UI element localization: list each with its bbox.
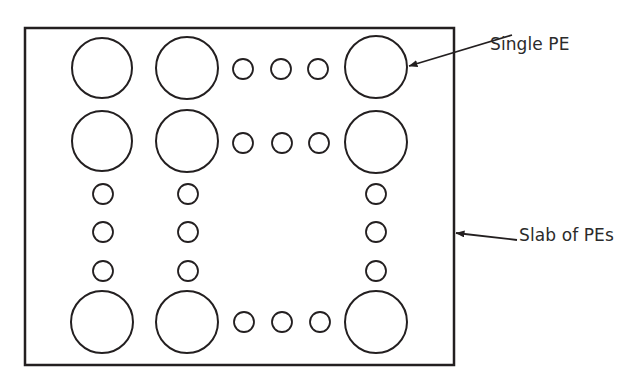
pe-circle-small (93, 184, 113, 204)
pe-circle-small (234, 312, 254, 332)
pe-circle-small (233, 59, 253, 79)
annotation-arrows (409, 35, 517, 240)
annotation-arrow-slab-of-pes (456, 233, 517, 240)
pe-circle-small (272, 133, 292, 153)
pe-circle-small (272, 312, 292, 332)
pe-circle-large (345, 291, 407, 353)
pe-circle-small (93, 261, 113, 281)
pe-circle-large (156, 291, 218, 353)
pe-circle-small (271, 59, 291, 79)
annotation-label-single-pe: Single PE (490, 36, 570, 53)
pe-circle-small (310, 312, 330, 332)
pe-circle-large (72, 38, 132, 98)
pe-circle-small (309, 133, 329, 153)
annotation-label-slab-of-pes: Slab of PEs (519, 227, 614, 244)
pe-circle-small (233, 133, 253, 153)
pe-grid (71, 36, 407, 353)
pe-circle-small (178, 184, 198, 204)
pe-circle-large (345, 111, 407, 173)
pe-circle-small (178, 222, 198, 242)
pe-circle-large (71, 291, 133, 353)
pe-circle-small (178, 261, 198, 281)
pe-circle-small (366, 184, 386, 204)
pe-circle-small (366, 261, 386, 281)
pe-circle-small (93, 222, 113, 242)
pe-circle-large (156, 110, 218, 172)
pe-circle-large (72, 111, 132, 171)
pe-circle-small (308, 59, 328, 79)
diagram-canvas (0, 0, 637, 392)
pe-circle-large (345, 36, 407, 98)
pe-circle-large (156, 37, 218, 99)
pe-circle-small (366, 222, 386, 242)
